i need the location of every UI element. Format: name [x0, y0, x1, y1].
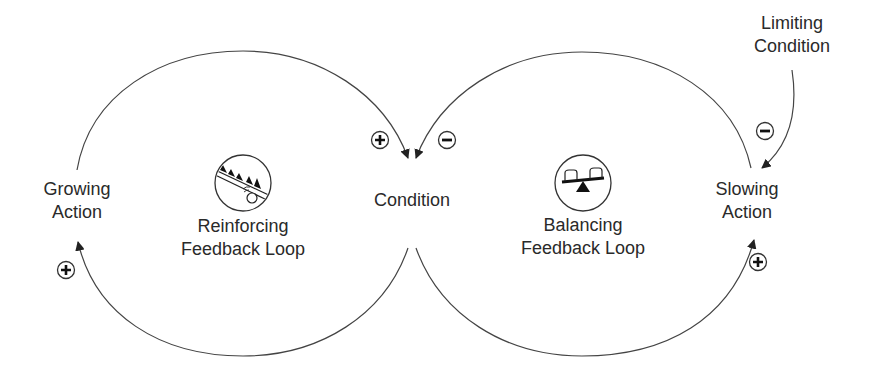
- link-growing-to-condition: [77, 51, 408, 170]
- node-label-line2: Condition: [737, 35, 847, 58]
- polarity-minus-icon: [439, 132, 456, 149]
- node-label-line1: Limiting: [737, 12, 847, 35]
- polarity-minus-icon: [757, 123, 774, 140]
- link-slowing-to-condition: [416, 52, 751, 168]
- node-label-line1: Slowing: [692, 178, 802, 201]
- polarity-plus-icon: [58, 262, 75, 279]
- node-label-line2: Action: [22, 201, 132, 224]
- loop-label-line2: Feedback Loop: [508, 237, 658, 260]
- node-growing-action: Growing Action: [22, 178, 132, 224]
- node-limiting-condition: Limiting Condition: [737, 12, 847, 58]
- causal-loop-diagram: Growing Action Condition Slowing Action …: [0, 0, 873, 370]
- polarity-plus-icon: [372, 132, 389, 149]
- link-limiting-to-slowing: [762, 70, 794, 168]
- node-condition: Condition: [352, 189, 472, 212]
- loop-label-line2: Feedback Loop: [168, 238, 318, 261]
- loop-label-balancing: Balancing Feedback Loop: [508, 214, 658, 260]
- seesaw-icon: [555, 155, 611, 211]
- node-slowing-action: Slowing Action: [692, 178, 802, 224]
- node-label: Condition: [352, 189, 472, 212]
- loop-label-reinforcing: Reinforcing Feedback Loop: [168, 215, 318, 261]
- loop-label-line1: Reinforcing: [168, 215, 318, 238]
- snowball-rolling-downhill-icon: [213, 155, 273, 211]
- polarity-plus-icon: [750, 254, 767, 271]
- node-label-line1: Growing: [22, 178, 132, 201]
- node-label-line2: Action: [692, 201, 802, 224]
- loop-label-line1: Balancing: [508, 214, 658, 237]
